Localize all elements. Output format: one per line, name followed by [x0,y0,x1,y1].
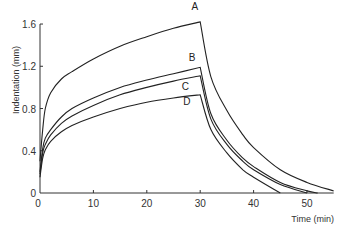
y-tick-label: 0 [30,188,36,199]
x-tick-label: 10 [88,198,100,209]
y-tick-label: 1.2 [22,61,36,72]
curve-label-d: D [183,96,190,107]
y-tick-label: 0.8 [22,104,36,115]
x-tick-label: 50 [301,198,313,209]
x-tick-label: 40 [248,198,260,209]
x-tick-label: 0 [35,198,41,209]
curve-label-b: B [189,52,196,63]
x-tick-label: 30 [195,198,207,209]
indentation-time-chart: 0102030405000.40.81.21.6Time (min)Indent… [0,0,347,236]
axes: 0102030405000.40.81.21.6Time (min)Indent… [11,19,334,224]
y-axis-title: Indentation (mm) [11,46,21,114]
curve-b [40,67,318,193]
curves [40,22,334,193]
x-axis-title: Time (min) [291,214,334,224]
curve-d [40,95,280,193]
y-tick-label: 0.4 [22,146,36,157]
curve-label-c: C [182,81,189,92]
y-tick-label: 1.6 [22,19,36,30]
labels: ABCD [182,1,199,107]
x-tick-label: 20 [141,198,153,209]
curve-label-a: A [192,1,199,12]
